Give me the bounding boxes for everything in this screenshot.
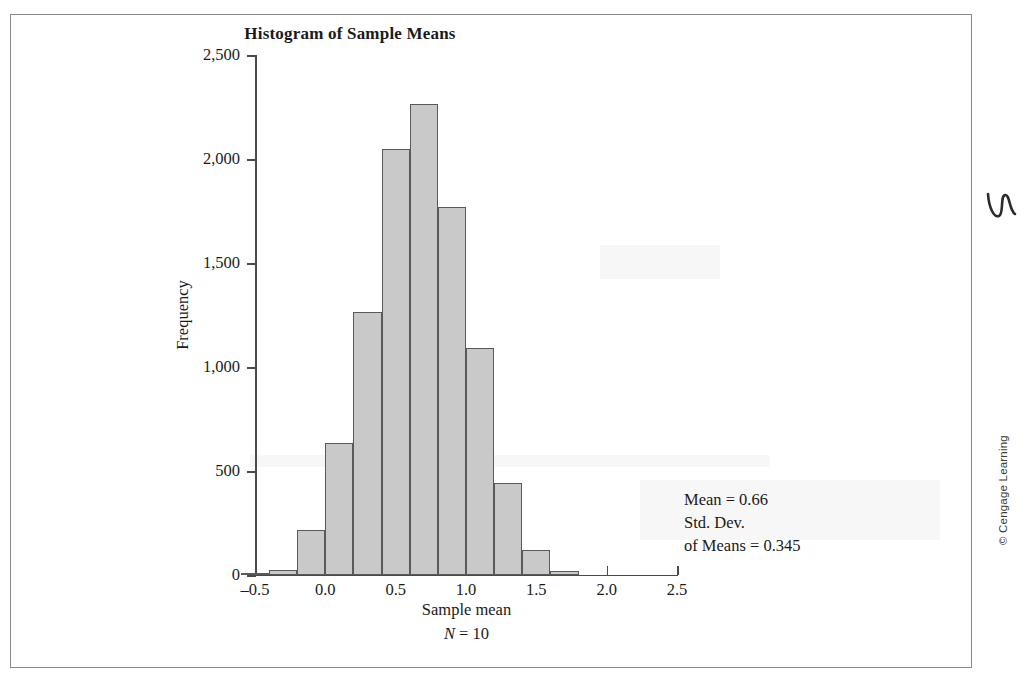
histogram-bar <box>522 550 550 575</box>
copyright-credit: © Cengage Learning <box>997 435 1009 545</box>
y-tick-label-2500: 2,500 <box>203 45 240 65</box>
x-tick-label-1.5: 1.5 <box>526 580 547 600</box>
statistics-annotation: Mean = 0.66 Std. Dev. of Means = 0.345 <box>684 489 801 557</box>
y-tick-label-2000: 2,000 <box>203 149 240 169</box>
histogram-bar <box>241 573 269 575</box>
y-axis-title: Frequency <box>173 280 193 350</box>
histogram-bar <box>325 443 353 575</box>
x-tick-2.5 <box>677 566 679 575</box>
histogram-bar <box>297 530 325 575</box>
x-tick-label-1.0: 1.0 <box>456 580 477 600</box>
x-axis-title: Sample mean <box>255 600 678 620</box>
y-tick-label-1000: 1,000 <box>203 357 240 377</box>
annotation-stddev-label: Std. Dev. <box>684 512 801 535</box>
histogram-plot: 0 500 1,000 1,500 2,000 2,500 –0.5 0.0 0… <box>0 0 1030 682</box>
x-tick-label-2.0: 2.0 <box>596 580 617 600</box>
x-tick-label-0.0: 0.0 <box>315 580 336 600</box>
x-tick-label-0.5: 0.5 <box>385 580 406 600</box>
x-axis-subtitle: N = 10 <box>255 624 678 644</box>
x-tick-label-n0.5: –0.5 <box>241 580 270 600</box>
y-tick-label-1500: 1,500 <box>203 253 240 273</box>
histogram-bar <box>410 104 438 575</box>
histogram-bar <box>269 570 297 575</box>
y-tick-label-500: 500 <box>215 461 240 481</box>
sample-size-value: = 10 <box>455 624 489 643</box>
y-tick-2500 <box>247 55 256 57</box>
y-tick-500 <box>247 471 256 473</box>
y-tick-label-0: 0 <box>232 565 240 585</box>
y-tick-2000 <box>247 159 256 161</box>
annotation-stddev-value: of Means = 0.345 <box>684 535 801 558</box>
squiggle-mark-icon <box>985 188 1019 230</box>
x-tick-2.0 <box>607 566 609 575</box>
y-tick-1500 <box>247 263 256 265</box>
histogram-bar <box>382 149 410 575</box>
x-tick-label-2.5: 2.5 <box>667 580 688 600</box>
histogram-bar <box>550 571 578 575</box>
y-axis-line <box>255 55 257 576</box>
histogram-bar <box>438 207 466 575</box>
histogram-bar <box>353 312 381 575</box>
histogram-bar <box>466 348 494 575</box>
y-tick-1000 <box>247 367 256 369</box>
annotation-mean: Mean = 0.66 <box>684 489 801 512</box>
histogram-bar <box>494 483 522 575</box>
sample-size-symbol: N <box>444 624 455 643</box>
